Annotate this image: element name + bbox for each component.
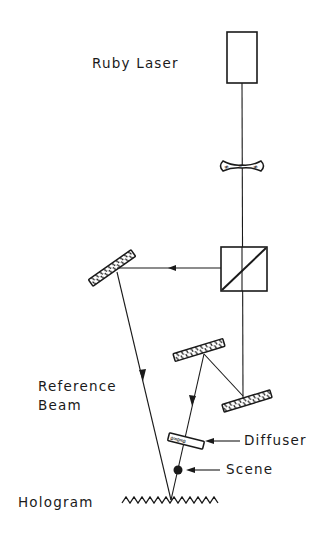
ruby-laser-box	[227, 32, 257, 83]
reference-beam-to-hologram	[117, 272, 171, 500]
hologram-label: Hologram	[18, 494, 94, 510]
svg-text:~: ~	[238, 163, 242, 169]
reference-beam-label-line2: Beam	[38, 397, 82, 413]
reference-beam-label-line1: Reference	[38, 378, 117, 394]
ruby-laser-label: Ruby Laser	[92, 55, 179, 71]
arrow-left-icon	[168, 265, 176, 271]
svg-text:≉: ≉	[224, 163, 229, 170]
object-beam-segment-2	[171, 354, 204, 500]
arrow-left-icon	[205, 438, 214, 444]
main-beam	[242, 83, 243, 398]
object-mirror-upper-icon	[173, 339, 225, 362]
object-beam-segment-1	[204, 354, 243, 396]
arrow-down-icon	[139, 369, 146, 381]
beam-splitter-icon	[221, 247, 267, 291]
arrow-down-icon	[189, 395, 196, 406]
holography-setup-diagram: ≉ ≉ ~ ɷ∞ɷ∞ɷ	[0, 0, 329, 533]
diffuser-label: Diffuser	[244, 432, 307, 448]
arrow-left-icon	[186, 467, 195, 473]
scene-label: Scene	[226, 461, 273, 477]
scene-object-icon	[174, 466, 183, 475]
svg-text:≉: ≉	[253, 163, 258, 170]
object-mirror-lower-icon	[222, 390, 272, 412]
